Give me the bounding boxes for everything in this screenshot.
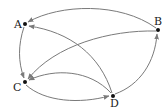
edge-d-to-b: [115, 34, 157, 94]
edge-c-to-d: [26, 85, 109, 101]
node-b-label: B: [154, 15, 162, 28]
edge-b-to-a: [28, 8, 156, 28]
directed-graph: A B C D: [0, 0, 167, 108]
node-c-label: C: [13, 81, 21, 94]
node-a-label: A: [13, 18, 23, 31]
node-c: [23, 80, 27, 84]
node-a: [23, 22, 27, 26]
edge-a-to-c: [20, 27, 25, 78]
node-b: [156, 28, 160, 32]
edge-d-to-c: [29, 73, 111, 93]
node-d-label: D: [110, 97, 119, 108]
edge-b-to-c: [28, 31, 156, 79]
